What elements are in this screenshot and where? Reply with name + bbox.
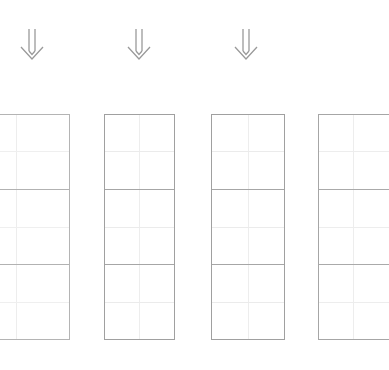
grid-lines [211, 114, 285, 340]
grid-lines [318, 114, 389, 340]
double-down-arrow-icon [231, 28, 261, 62]
double-down-arrow-icon [17, 28, 47, 62]
arrow-row [0, 0, 337, 100]
grid-lines [104, 114, 175, 340]
grid-lines [0, 114, 70, 340]
grid-table[interactable] [318, 114, 389, 340]
grid-table[interactable] [211, 114, 285, 340]
grid-table[interactable] [104, 114, 175, 340]
grid-table[interactable] [0, 114, 70, 340]
double-down-arrow-icon [124, 28, 154, 62]
